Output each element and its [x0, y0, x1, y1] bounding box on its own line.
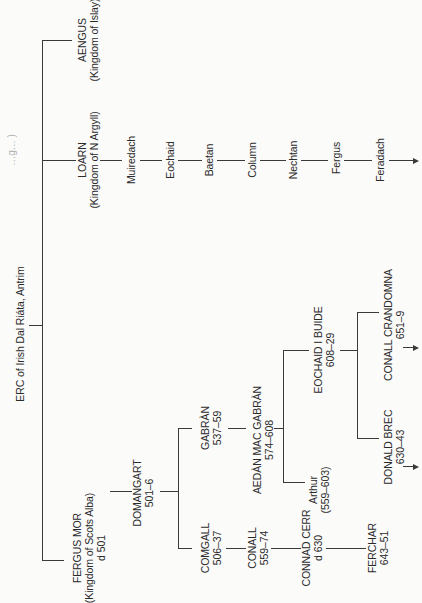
fergus-mor-dates: d 501 — [95, 493, 107, 603]
comgall-name: COMGALL — [199, 523, 211, 574]
node-arthur: Arthur (559–603) — [307, 467, 331, 514]
connad-cerr-name: CONNAD CERR — [300, 509, 312, 586]
fergus-mor-note: (Kingdom of Scots Alba) — [83, 493, 95, 603]
conall-crandomna-name: CONALL CRANDOMNA — [382, 269, 394, 381]
eochaid-buide-out-line — [340, 350, 357, 351]
node-connad-cerr: CONNAD CERR d 630 — [300, 509, 324, 586]
chain-line-8 — [389, 160, 413, 161]
connad-cerr-dates: d 630 — [312, 509, 324, 586]
aedan-bracket — [283, 350, 284, 483]
node-gabran: GABRÀN 537–59 — [199, 406, 223, 450]
node-fergus: Fergus — [330, 142, 342, 174]
column-name: Column — [246, 142, 258, 178]
comgall-to-conall-line — [226, 548, 246, 549]
node-nechtan: Nechtan — [287, 141, 299, 179]
eochaid-buide-name: EOCHAID I BUIDE — [312, 306, 324, 393]
arthur-name: Arthur — [307, 467, 319, 514]
conall-crandomna-connector — [357, 312, 379, 313]
eochaid-buide-connector — [283, 350, 309, 351]
node-feradach: Feradach — [374, 138, 386, 182]
node-aengus: AENGUS (Kingdom of Islay) — [76, 0, 100, 81]
conall-to-connad-line — [271, 548, 301, 549]
ferchar-name: FERCHAR — [366, 523, 378, 573]
ferchar-dates: 643–51 — [378, 523, 390, 573]
gabran-connector — [178, 428, 192, 429]
chain-line-1 — [100, 160, 122, 161]
continuation-arrow-icon — [413, 158, 419, 164]
arthur-connector — [283, 482, 305, 483]
aedan-dates: 574–608 — [263, 386, 275, 494]
arthur-dates: (559–603) — [319, 467, 331, 514]
comgall-dates: 506–37 — [211, 523, 223, 574]
chain-line-2 — [140, 160, 162, 161]
sons-trunk-line — [42, 40, 43, 561]
node-baetan: Baetan — [203, 144, 215, 177]
loarn-note: (Kingdom of N Argyll) — [88, 111, 100, 208]
node-loarn: LOARN (Kingdom of N Argyll) — [76, 111, 100, 208]
fergus-mor-name: FERGUS MOR — [71, 493, 83, 603]
baetan-name: Baetan — [203, 144, 215, 177]
chain-line-5 — [260, 160, 286, 161]
fergus-name: Fergus — [330, 142, 342, 174]
eochaid-buide-bracket — [357, 312, 358, 439]
node-ferchar: FERCHAR 643–51 — [366, 523, 390, 573]
continuation-arrow-icon — [413, 464, 419, 470]
gabran-name: GABRÀN — [199, 406, 211, 450]
node-eochaid-buide: EOCHAID I BUIDE 608–29 — [312, 306, 336, 393]
gabran-dates: 537–59 — [211, 406, 223, 450]
gabran-to-aedan-line — [228, 428, 246, 429]
node-comgall: COMGALL 506–37 — [199, 523, 223, 574]
domangart-connector — [160, 491, 178, 492]
node-muiredach: Muiredach — [125, 136, 137, 184]
conall-crandomna-arrow-line — [403, 347, 413, 348]
nechtan-name: Nechtan — [287, 141, 299, 179]
root-connector — [29, 325, 42, 326]
comgall-connector — [178, 548, 192, 549]
fergus-to-domangart-line — [110, 491, 132, 492]
donald-brec-name: DONALD BREC — [382, 410, 394, 485]
aengus-note: (Kingdom of Islay) — [88, 0, 100, 81]
conall-name: CONALL — [246, 527, 258, 568]
connad-to-ferchar-line — [326, 548, 366, 549]
node-aedan: AEDÀN MAC GABRÀN 574–608 — [251, 386, 275, 494]
aengus-name: AENGUS — [76, 0, 88, 81]
edge-caption-fragment: …g… ) — [6, 134, 17, 166]
conall-crandomna-dates: 651–9 — [394, 269, 406, 381]
node-fergus-mor: FERGUS MOR (Kingdom of Scots Alba) d 501 — [71, 493, 107, 603]
root-name: ERC of Irish Dal Riáta, Antrim — [14, 266, 26, 401]
continuation-arrow-icon — [413, 345, 419, 351]
muiredach-name: Muiredach — [125, 136, 137, 184]
node-conall: CONALL 559–74 — [246, 527, 270, 568]
node-conall-crandomna: CONALL CRANDOMNA 651–9 — [382, 269, 406, 381]
loarn-connector — [42, 160, 76, 161]
eochaid-name: Eochaid — [164, 141, 176, 178]
chain-line-6 — [301, 160, 328, 161]
aedan-connector — [274, 428, 283, 429]
aengus-connector — [42, 40, 72, 41]
donald-brec-dates: 630–43 — [394, 410, 406, 485]
chain-line-4 — [217, 160, 245, 161]
loarn-name: LOARN — [76, 111, 88, 208]
chain-line-7 — [344, 160, 372, 161]
donald-brec-arrow-line — [403, 466, 413, 467]
domangart-name: DOMANGART — [131, 459, 143, 526]
root-erc: ERC of Irish Dal Riáta, Antrim — [14, 266, 26, 401]
fergus-mor-connector — [42, 560, 64, 561]
node-donald-brec: DONALD BREC 630–43 — [382, 410, 406, 485]
node-eochaid: Eochaid — [164, 141, 176, 178]
node-column: Column — [246, 142, 258, 178]
feradach-name: Feradach — [374, 138, 386, 182]
conall-dates: 559–74 — [258, 527, 270, 568]
eochaid-buide-dates: 608–29 — [324, 306, 336, 393]
aedan-name: AEDÀN MAC GABRÀN — [251, 386, 263, 494]
domangart-bracket — [178, 428, 179, 549]
node-domangart: DOMANGART 501–6 — [131, 459, 155, 526]
donald-brec-connector — [357, 438, 379, 439]
chain-line-3 — [178, 160, 202, 161]
domangart-dates: 501–6 — [143, 459, 155, 526]
